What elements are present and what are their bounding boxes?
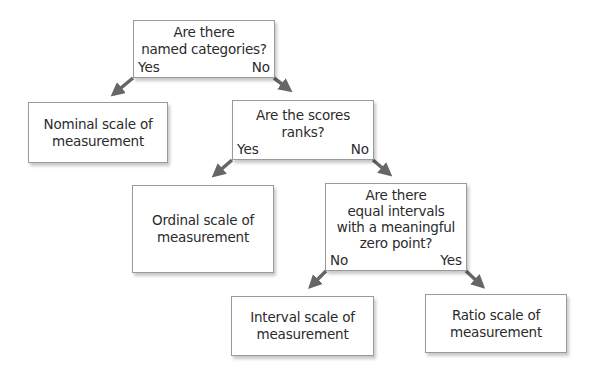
question-box-scores-ranks: Are the scores ranks? Yes No (232, 100, 374, 160)
yes-label: Yes (237, 142, 259, 157)
question-line: with a meaningful (326, 219, 466, 235)
question-text: Are there equal intervals with a meaning… (326, 187, 466, 251)
result-line: Nominal scale of (29, 116, 167, 133)
question-box-named-categories: Are there named categories? Yes No (133, 20, 275, 78)
yes-label: Yes (440, 253, 462, 268)
result-line: measurement (29, 133, 167, 150)
no-label: No (351, 142, 369, 157)
question-line: Are there (134, 24, 274, 41)
question-line: Are the scores (233, 107, 373, 124)
question-line: equal intervals (326, 203, 466, 219)
result-box-ordinal: Ordinal scale of measurement (132, 185, 274, 273)
question-box-equal-intervals: Are there equal intervals with a meaning… (325, 183, 467, 271)
arrow-q1-no (274, 78, 287, 88)
result-text: Ordinal scale of measurement (133, 212, 273, 246)
question-line: zero point? (326, 235, 466, 251)
question-line: ranks? (233, 124, 373, 141)
arrow-q3-yes (466, 271, 480, 284)
question-line: Are there (326, 187, 466, 203)
result-line: measurement (133, 229, 273, 246)
yes-label: Yes (138, 60, 160, 75)
result-line: Interval scale of (232, 309, 373, 326)
question-line: named categories? (134, 41, 274, 58)
question-text: Are there named categories? (134, 24, 274, 58)
result-box-interval: Interval scale of measurement (231, 296, 374, 356)
result-text: Nominal scale of measurement (29, 116, 167, 150)
result-line: Ordinal scale of (133, 212, 273, 229)
result-box-nominal: Nominal scale of measurement (28, 102, 168, 163)
result-line: measurement (232, 326, 373, 343)
no-label: No (252, 60, 270, 75)
arrow-q1-yes (116, 78, 133, 92)
result-line: measurement (426, 324, 566, 341)
result-text: Interval scale of measurement (232, 309, 373, 343)
result-text: Ratio scale of measurement (426, 307, 566, 341)
arrow-q2-yes (217, 160, 232, 173)
result-line: Ratio scale of (426, 307, 566, 324)
arrow-q2-no (373, 160, 387, 172)
result-box-ratio: Ratio scale of measurement (425, 294, 567, 353)
question-text: Are the scores ranks? (233, 107, 373, 141)
no-label: No (330, 253, 348, 268)
arrow-q3-no (313, 271, 326, 284)
